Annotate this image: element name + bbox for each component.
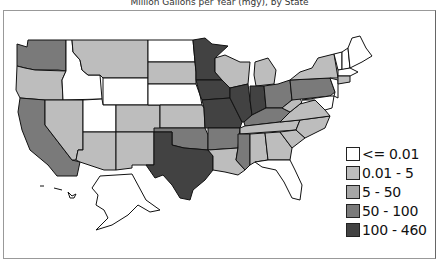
- legend-swatch: [346, 185, 360, 199]
- state-mi: [254, 58, 276, 86]
- state-ar: [208, 128, 240, 150]
- state-fl: [255, 160, 302, 200]
- legend-item: 0.01 - 5: [346, 163, 427, 182]
- legend-item: 100 - 460: [346, 220, 427, 239]
- legend-item: 5 - 50: [346, 182, 427, 201]
- state-wy: [103, 78, 148, 105]
- legend-item: 50 - 100: [346, 201, 427, 220]
- state-co: [116, 105, 160, 132]
- state-nd: [148, 40, 195, 62]
- legend-label: <= 0.01: [362, 146, 419, 162]
- legend-label: 5 - 50: [362, 184, 401, 200]
- legend-label: 100 - 460: [362, 222, 427, 238]
- legend-label: 0.01 - 5: [362, 165, 414, 181]
- state-ak: [92, 174, 160, 230]
- map-legend: <= 0.01 0.01 - 5 5 - 50 50 - 100 100 - 4…: [346, 144, 427, 239]
- legend-item: <= 0.01: [346, 144, 427, 163]
- legend-swatch: [346, 223, 360, 237]
- state-me: [348, 36, 372, 68]
- legend-swatch: [346, 166, 360, 180]
- state-nm: [116, 132, 154, 170]
- state-hi: [40, 186, 76, 198]
- legend-swatch: [346, 204, 360, 218]
- state-ma: [338, 68, 358, 76]
- state-sd: [148, 62, 196, 84]
- state-ks: [160, 105, 205, 128]
- state-or: [16, 66, 66, 100]
- state-ne: [148, 84, 202, 105]
- legend-swatch: [346, 147, 360, 161]
- legend-label: 50 - 100: [362, 203, 418, 219]
- state-ny: [290, 54, 338, 80]
- state-wa: [17, 40, 66, 71]
- state-ct-ri: [338, 76, 350, 84]
